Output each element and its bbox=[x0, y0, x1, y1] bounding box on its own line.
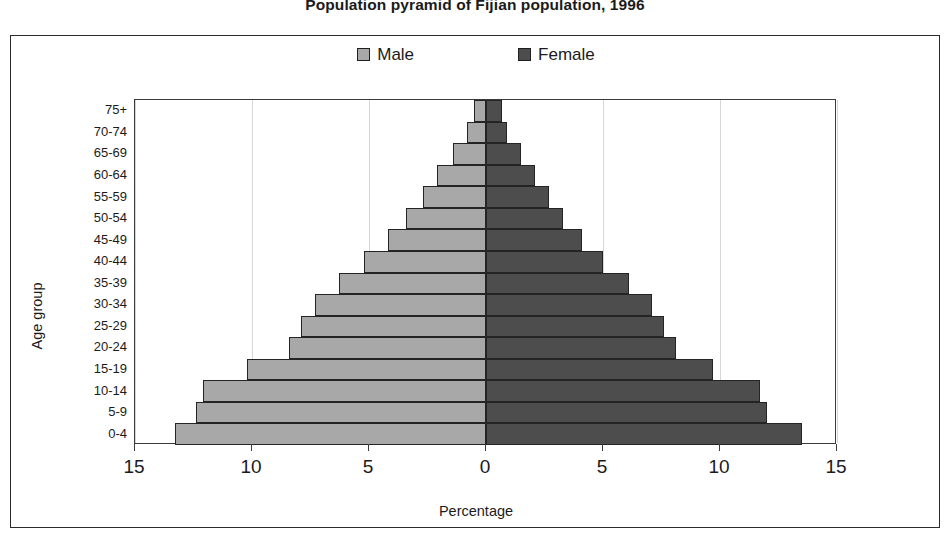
bar-row bbox=[135, 423, 835, 445]
x-tick-label: 5 bbox=[363, 456, 374, 478]
bar-female[interactable] bbox=[486, 359, 713, 381]
bar-series-container bbox=[135, 100, 835, 443]
bar-female[interactable] bbox=[486, 402, 767, 424]
bar-female[interactable] bbox=[486, 294, 652, 316]
bar-male[interactable] bbox=[203, 380, 486, 402]
bar-male[interactable] bbox=[467, 122, 486, 144]
bar-row bbox=[135, 359, 835, 381]
y-tick-label: 70-74 bbox=[94, 125, 127, 138]
x-tick bbox=[134, 444, 135, 451]
y-tick-label: 65-69 bbox=[94, 146, 127, 159]
chart-legend: Male Female bbox=[11, 46, 941, 63]
bar-row bbox=[135, 143, 835, 165]
y-axis-title: Age group bbox=[25, 216, 49, 416]
bar-female[interactable] bbox=[486, 316, 664, 338]
legend-swatch-female bbox=[518, 48, 531, 61]
y-axis-title-text: Age group bbox=[29, 283, 45, 350]
bar-male[interactable] bbox=[196, 402, 486, 424]
y-tick-label: 60-64 bbox=[94, 168, 127, 181]
y-tick-label: 20-24 bbox=[94, 340, 127, 353]
y-tick-label: 55-59 bbox=[94, 190, 127, 203]
y-tick-label: 75+ bbox=[105, 103, 127, 116]
y-tick-label: 40-44 bbox=[94, 254, 127, 267]
bar-male[interactable] bbox=[301, 316, 486, 338]
bar-row bbox=[135, 100, 835, 122]
bar-female[interactable] bbox=[486, 423, 802, 445]
x-tick bbox=[368, 444, 369, 451]
bar-male[interactable] bbox=[437, 165, 486, 187]
x-tick-label: 0 bbox=[480, 456, 491, 478]
x-tick bbox=[485, 444, 486, 451]
bar-female[interactable] bbox=[486, 165, 535, 187]
bar-male[interactable] bbox=[175, 423, 486, 445]
bar-male[interactable] bbox=[364, 251, 486, 273]
bar-row bbox=[135, 380, 835, 402]
bar-row bbox=[135, 251, 835, 273]
bar-row bbox=[135, 122, 835, 144]
bar-row bbox=[135, 337, 835, 359]
y-tick-label: 35-39 bbox=[94, 276, 127, 289]
x-tick bbox=[251, 444, 252, 451]
bar-female[interactable] bbox=[486, 122, 507, 144]
page-title: Population pyramid of Fijian population,… bbox=[0, 0, 950, 14]
legend-item-male[interactable]: Male bbox=[357, 46, 414, 63]
x-axis-title: Percentage bbox=[11, 503, 941, 519]
bar-male[interactable] bbox=[406, 208, 486, 230]
x-tick-label: 10 bbox=[708, 456, 729, 478]
bar-row bbox=[135, 229, 835, 251]
y-tick-label: 50-54 bbox=[94, 211, 127, 224]
y-axis-tick-labels: 75+70-7465-6960-6455-5950-5445-4940-4435… bbox=[63, 99, 131, 444]
bar-female[interactable] bbox=[486, 273, 629, 295]
bar-female[interactable] bbox=[486, 229, 582, 251]
plot-area bbox=[134, 99, 836, 444]
bar-female[interactable] bbox=[486, 143, 521, 165]
bar-male[interactable] bbox=[423, 186, 486, 208]
gridline bbox=[837, 100, 838, 443]
bar-row bbox=[135, 186, 835, 208]
bar-male[interactable] bbox=[388, 229, 486, 251]
legend-label-male: Male bbox=[377, 46, 414, 63]
x-axis-tick-labels: 15105051015 bbox=[134, 456, 836, 482]
bar-female[interactable] bbox=[486, 337, 676, 359]
bar-row bbox=[135, 208, 835, 230]
y-tick-label: 30-34 bbox=[94, 297, 127, 310]
legend-item-female[interactable]: Female bbox=[518, 46, 595, 63]
bar-male[interactable] bbox=[315, 294, 486, 316]
y-tick-label: 45-49 bbox=[94, 233, 127, 246]
legend-label-female: Female bbox=[538, 46, 595, 63]
y-tick-label: 15-19 bbox=[94, 362, 127, 375]
x-tick-label: 15 bbox=[825, 456, 846, 478]
y-tick-label: 0-4 bbox=[108, 427, 127, 440]
x-tick bbox=[602, 444, 603, 451]
bar-row bbox=[135, 316, 835, 338]
bar-female[interactable] bbox=[486, 100, 502, 122]
x-tick-label: 15 bbox=[123, 456, 144, 478]
x-tick bbox=[836, 444, 837, 451]
chart-frame: Male Female Age group 75+70-7465-6960-64… bbox=[10, 35, 940, 528]
bar-row bbox=[135, 402, 835, 424]
bar-row bbox=[135, 165, 835, 187]
y-tick-label: 25-29 bbox=[94, 319, 127, 332]
bar-female[interactable] bbox=[486, 208, 563, 230]
bar-female[interactable] bbox=[486, 380, 760, 402]
x-axis-ticks bbox=[134, 444, 836, 452]
y-tick-label: 5-9 bbox=[108, 405, 127, 418]
bar-row bbox=[135, 294, 835, 316]
bar-male[interactable] bbox=[289, 337, 486, 359]
x-tick bbox=[719, 444, 720, 451]
bar-female[interactable] bbox=[486, 251, 603, 273]
bar-female[interactable] bbox=[486, 186, 549, 208]
chart-page: Population pyramid of Fijian population,… bbox=[0, 0, 950, 541]
x-tick-label: 10 bbox=[240, 456, 261, 478]
x-tick-label: 5 bbox=[597, 456, 608, 478]
bar-male[interactable] bbox=[339, 273, 486, 295]
bar-male[interactable] bbox=[474, 100, 486, 122]
bar-male[interactable] bbox=[453, 143, 486, 165]
bar-male[interactable] bbox=[247, 359, 486, 381]
y-tick-label: 10-14 bbox=[94, 384, 127, 397]
legend-swatch-male bbox=[357, 48, 370, 61]
bar-row bbox=[135, 273, 835, 295]
